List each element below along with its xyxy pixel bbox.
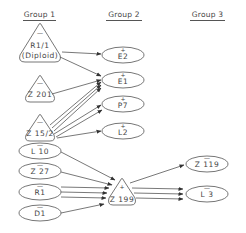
label-r1-1: R1/1	[20, 42, 60, 50]
header-group-1: Group 1	[23, 10, 56, 21]
label-r1-1-diploid: (Diploid)	[18, 52, 62, 60]
header-group-2: Group 2	[106, 10, 142, 21]
sign-r1-1: —	[34, 30, 46, 36]
label-d1: D1	[22, 210, 58, 218]
label-r1: R1	[22, 189, 58, 197]
label-p7: P7	[105, 102, 141, 110]
label-l10: L 10	[22, 148, 58, 156]
label-z119: Z 119	[189, 161, 225, 169]
label-l2: L2	[105, 129, 141, 137]
group-diagram: Group 1 Group 2 Group 3 — R1/1 (Diploid)…	[0, 0, 246, 233]
label-e1: E1	[105, 78, 141, 86]
label-z15-2: Z 15/2	[20, 130, 60, 138]
label-z27: Z 27	[22, 168, 58, 176]
label-z201: Z 201	[22, 91, 58, 99]
header-group-3: Group 3	[190, 10, 225, 21]
label-z199: Z 199	[104, 196, 140, 204]
sign-z201: —	[34, 80, 46, 86]
label-e2: E2	[105, 53, 141, 61]
label-l3: L 3	[189, 191, 225, 199]
sign-z15-2: —	[34, 119, 46, 125]
sign-z199: +	[116, 184, 128, 190]
